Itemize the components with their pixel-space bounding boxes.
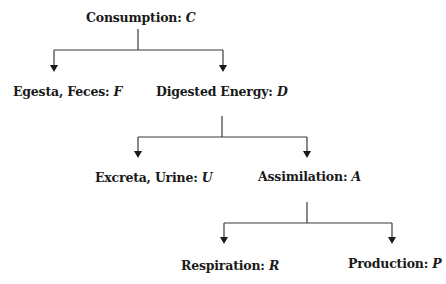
node-label-text: Digested Energy:	[156, 84, 277, 99]
node-excreta: Excreta, Urine: U	[95, 171, 212, 185]
arrowhead-icon	[220, 237, 228, 244]
node-symbol: A	[351, 169, 361, 184]
node-symbol: D	[277, 84, 288, 99]
arrowhead-icon	[219, 65, 227, 72]
node-egesta: Egesta, Feces: F	[13, 85, 122, 99]
node-label-text: Respiration:	[181, 258, 269, 273]
node-label-text: Consumption:	[86, 10, 186, 25]
node-respiration: Respiration: R	[181, 259, 279, 273]
node-label-text: Excreta, Urine:	[95, 170, 202, 185]
node-symbol: U	[202, 170, 213, 185]
node-symbol: C	[186, 10, 196, 25]
node-digested-energy: Digested Energy: D	[156, 85, 288, 99]
arrowhead-icon	[388, 237, 396, 244]
connector-lines	[0, 0, 446, 284]
node-label-text: Egesta, Feces:	[13, 84, 114, 99]
node-symbol: F	[114, 84, 123, 99]
arrowhead-icon	[134, 151, 142, 158]
arrowhead-icon	[50, 65, 58, 72]
node-label-text: Assimilation:	[258, 169, 351, 184]
node-assimilation: Assimilation: A	[258, 170, 361, 184]
arrowhead-icon	[303, 151, 311, 158]
node-consumption: Consumption: C	[86, 11, 196, 25]
node-symbol: R	[269, 258, 279, 273]
node-label-text: Production:	[348, 256, 432, 271]
energy-flow-diagram: Consumption: C Egesta, Feces: F Digested…	[0, 0, 446, 284]
node-symbol: P	[432, 256, 441, 271]
node-production: Production: P	[348, 257, 441, 271]
